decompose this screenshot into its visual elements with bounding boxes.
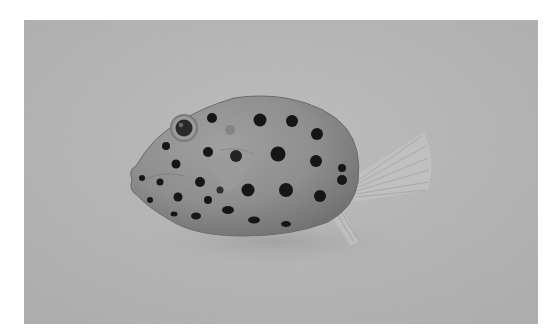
boxfish-illustration <box>24 20 538 324</box>
eye <box>171 115 197 141</box>
photo: Grayscale photograph of a spotted boxfis… <box>24 20 538 324</box>
